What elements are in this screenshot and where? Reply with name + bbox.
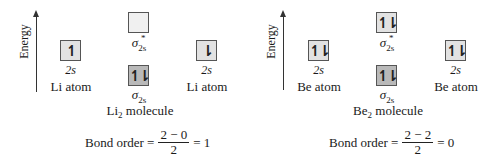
li-right-2s-orbital: ⇂	[196, 40, 217, 61]
be2-sigma-star-orbital: ↿⇂	[376, 12, 397, 33]
be-left-atom-name: Be atom	[290, 79, 348, 95]
be2-sigma-orbital: ↿⇂	[376, 65, 397, 86]
be2-bond-order: Bond order = 2 − 2 2 = 0	[329, 128, 454, 157]
li-right-2s-label: 2s	[196, 63, 217, 78]
energy-axis-label: Energy	[264, 24, 279, 58]
be-right-atom-name: Be atom	[427, 79, 485, 95]
li2-molecule-name: Li2 molecule	[100, 103, 180, 120]
li2-sigma-star-label: σ2s*	[124, 33, 154, 53]
bond-order-label: Bond order =	[85, 135, 154, 151]
bond-order-label: Bond order =	[329, 135, 398, 151]
li-left-atom-name: Li atom	[44, 79, 98, 95]
bond-order-result: = 1	[193, 135, 210, 151]
be2-molecule-name: Be2 molecule	[346, 103, 430, 120]
energy-axis-label: Energy	[17, 24, 32, 58]
energy-axis	[36, 15, 37, 92]
bond-order-fraction: 2 − 0 2	[158, 128, 189, 157]
be-right-2s-label: 2s	[445, 63, 466, 78]
bond-order-fraction: 2 − 2 2	[402, 128, 433, 157]
be-left-2s-label: 2s	[308, 63, 329, 78]
be-left-2s-orbital: ↿⇂	[308, 40, 329, 61]
bond-order-result: = 0	[437, 135, 454, 151]
li2-bond-order: Bond order = 2 − 0 2 = 1	[85, 128, 210, 157]
li-left-2s-orbital: ↿	[60, 40, 81, 61]
li-left-2s-label: 2s	[60, 63, 81, 78]
be-right-2s-orbital: ↿⇂	[445, 40, 466, 61]
li2-sigma-star-orbital	[128, 12, 149, 33]
li-right-atom-name: Li atom	[180, 79, 234, 95]
li2-sigma-orbital: ↿⇂	[128, 65, 149, 86]
energy-axis	[283, 15, 284, 90]
be2-sigma-star-label: σ2s*	[372, 33, 402, 53]
